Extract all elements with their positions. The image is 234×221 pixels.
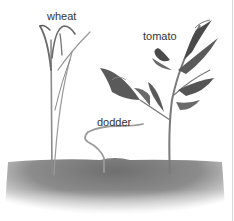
illustration-artwork — [0, 0, 234, 221]
wheat-plant — [40, 26, 90, 176]
soil-mound — [0, 158, 234, 221]
plant-illustration: wheat tomato dodder — [0, 0, 234, 221]
tomato-plant — [100, 20, 218, 174]
right-border — [232, 0, 233, 221]
tomato-label: tomato — [143, 31, 177, 42]
wheat-label: wheat — [47, 11, 76, 22]
dodder-label: dodder — [97, 117, 131, 128]
